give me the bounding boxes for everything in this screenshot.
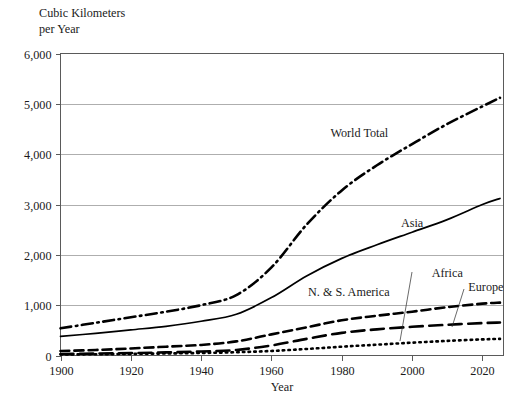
x-tick-label-1960: 1960 (259, 364, 283, 378)
y-tick-label-6000: 6,000 (24, 48, 51, 62)
series-label-world-total: World Total (330, 126, 388, 140)
series-annotations: World TotalAsiaN. & S. AmericaAfricaEuro… (308, 126, 504, 300)
leader-line-europe (452, 289, 464, 327)
series-label-africa: Africa (432, 266, 464, 280)
x-axis-tick-labels: 1900192019401960198020002020 (49, 364, 494, 378)
x-axis-tickmarks (62, 356, 483, 361)
x-tick-label-2020: 2020 (470, 364, 494, 378)
y-tick-label-0: 0 (45, 350, 51, 364)
series-label-asia: Asia (401, 216, 424, 230)
y-axis-title-line2: per Year (39, 22, 80, 36)
x-tick-label-1920: 1920 (119, 364, 143, 378)
y-axis-tickmarks (56, 55, 61, 357)
series-line-world-total (61, 98, 500, 329)
water-use-line-chart: 01,0002,0003,0004,0005,0006,000 19001920… (0, 0, 520, 409)
x-tick-label-2000: 2000 (400, 364, 424, 378)
series-lines (61, 98, 500, 355)
x-tick-label-1980: 1980 (330, 364, 354, 378)
x-tick-label-1940: 1940 (189, 364, 213, 378)
series-label-europe: Europe (468, 280, 503, 294)
y-tick-label-5000: 5,000 (24, 98, 51, 112)
y-tick-label-3000: 3,000 (24, 199, 51, 213)
x-tick-label-1900: 1900 (49, 364, 73, 378)
x-axis-title: Year (271, 380, 293, 394)
y-tick-label-1000: 1,000 (24, 299, 51, 313)
y-tick-label-2000: 2,000 (24, 249, 51, 263)
y-axis-tick-labels: 01,0002,0003,0004,0005,0006,000 (24, 48, 51, 364)
y-axis-title-line1: Cubic Kilometers (39, 6, 126, 20)
plot-frame (61, 54, 504, 356)
chart-canvas: 01,0002,0003,0004,0005,0006,000 19001920… (0, 0, 520, 409)
y-tick-label-4000: 4,000 (24, 148, 51, 162)
series-label-n-s-america: N. & S. America (308, 285, 390, 299)
leader-line-africa (400, 272, 412, 341)
